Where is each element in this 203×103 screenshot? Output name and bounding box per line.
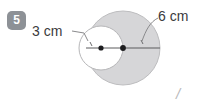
corner-partial-glyph: /	[176, 86, 180, 101]
large-circle-center-dot	[120, 45, 126, 51]
circles-figure	[0, 0, 203, 103]
small-circle-center-dot	[98, 45, 103, 50]
figure-page: 5 3 cm 6 cm /	[0, 0, 203, 103]
